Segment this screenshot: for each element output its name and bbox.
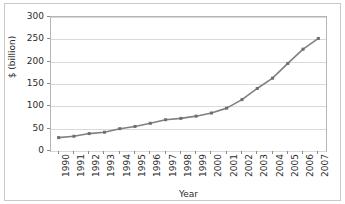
x-axis-title: Year xyxy=(50,189,327,199)
data-point-marker xyxy=(210,112,213,115)
x-tick-mark xyxy=(195,151,196,154)
data-point-marker xyxy=(72,135,75,138)
x-tick-label: 1996 xyxy=(153,154,162,177)
x-tick-mark xyxy=(134,151,135,154)
x-tick-mark xyxy=(58,151,59,154)
x-tick-label: 2007 xyxy=(321,154,330,177)
data-point-marker xyxy=(195,115,198,118)
x-tick-label: 2002 xyxy=(245,154,254,177)
x-tick-mark xyxy=(180,151,181,154)
x-tick-mark xyxy=(226,151,227,154)
y-tick-label: 150 xyxy=(27,79,44,88)
x-tick-mark xyxy=(241,151,242,154)
x-tick-mark xyxy=(287,151,288,154)
y-tick-label: 100 xyxy=(27,101,44,110)
data-point-marker xyxy=(271,77,274,80)
x-tick-label: 1990 xyxy=(62,154,71,177)
y-tick-label: 250 xyxy=(27,34,44,43)
y-tick-label: 0 xyxy=(38,146,44,155)
x-tick-label: 1997 xyxy=(169,154,178,177)
x-tick-label: 2001 xyxy=(230,154,239,177)
x-tick-mark xyxy=(103,151,104,154)
data-point-marker xyxy=(164,118,167,121)
x-tick-label: 2003 xyxy=(260,154,269,177)
y-tick-label: 200 xyxy=(27,57,44,66)
data-point-marker xyxy=(225,107,228,110)
x-axis: 1990199119921993199419951996199719981999… xyxy=(50,154,327,190)
x-tick-mark xyxy=(302,151,303,154)
data-point-marker xyxy=(118,127,121,130)
x-tick-label: 1994 xyxy=(123,154,132,177)
plot-area xyxy=(50,16,327,152)
gridline xyxy=(51,151,326,152)
data-point-marker xyxy=(256,87,259,90)
x-tick-label: 1998 xyxy=(184,154,193,177)
data-point-marker xyxy=(179,117,182,120)
x-tick-label: 2006 xyxy=(306,154,315,177)
x-tick-mark xyxy=(256,151,257,154)
data-point-marker xyxy=(134,125,137,128)
x-tick-mark xyxy=(317,151,318,154)
x-tick-mark xyxy=(73,151,74,154)
x-tick-label: 2005 xyxy=(291,154,300,177)
data-series-line xyxy=(51,17,326,151)
x-tick-label: 1992 xyxy=(92,154,101,177)
chart-figure: 050100150200250300 $ (billion) 199019911… xyxy=(0,0,345,204)
data-point-marker xyxy=(103,131,106,134)
x-tick-mark xyxy=(149,151,150,154)
x-tick-label: 2004 xyxy=(276,154,285,177)
y-axis-title: $ (billion) xyxy=(7,17,17,97)
x-tick-label: 1999 xyxy=(199,154,208,177)
x-tick-mark xyxy=(165,151,166,154)
y-tick-label: 50 xyxy=(33,124,44,133)
data-point-marker xyxy=(88,132,91,135)
data-point-marker xyxy=(149,122,152,125)
data-point-marker xyxy=(57,136,60,139)
data-point-marker xyxy=(240,98,243,101)
data-point-marker xyxy=(317,37,320,40)
x-tick-mark xyxy=(88,151,89,154)
x-tick-label: 1991 xyxy=(77,154,86,177)
x-tick-label: 1995 xyxy=(138,154,147,177)
x-tick-mark xyxy=(210,151,211,154)
data-point-marker xyxy=(302,48,305,51)
series-line xyxy=(59,38,319,137)
x-tick-label: 1993 xyxy=(107,154,116,177)
y-tick-label: 300 xyxy=(27,12,44,21)
data-point-marker xyxy=(286,62,289,65)
x-tick-label: 2000 xyxy=(214,154,223,177)
x-tick-mark xyxy=(119,151,120,154)
x-tick-mark xyxy=(272,151,273,154)
